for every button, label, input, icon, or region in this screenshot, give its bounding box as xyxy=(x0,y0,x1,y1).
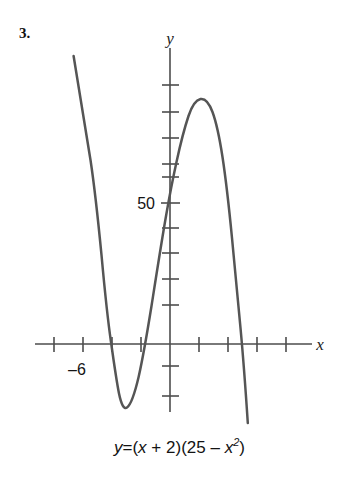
equation-equals: = xyxy=(123,438,133,457)
equation-constant-25: 25 xyxy=(187,438,206,457)
x-axis-label: x xyxy=(315,335,324,354)
polynomial-curve xyxy=(74,56,248,423)
equation-x-1: x xyxy=(138,438,147,457)
curve-group xyxy=(74,56,248,423)
y-axis-label: y xyxy=(164,29,174,48)
equation-minus: – xyxy=(210,438,219,457)
equation-lhs: y xyxy=(114,438,123,457)
equation-close-paren-2: ) xyxy=(239,438,245,457)
equation-x-2: x xyxy=(225,438,234,457)
equation-caption: y=(x + 2)(25 – x2) xyxy=(0,438,359,458)
y-tick-label-50: 50 xyxy=(137,195,155,212)
equation-plus: + xyxy=(151,438,161,457)
x-tick-label--6: –6 xyxy=(68,361,86,378)
graph-figure: x y 50 –6 xyxy=(0,0,359,478)
